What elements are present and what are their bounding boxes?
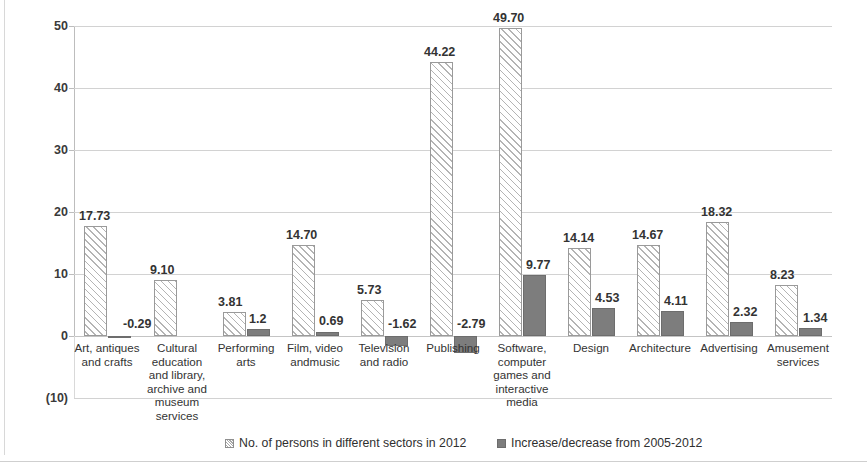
y-axis-tick-label: 40: [26, 82, 68, 95]
gridline-40: [74, 88, 832, 89]
bar-value-label: 14.67: [632, 229, 663, 242]
x-axis-category-line: Film, video: [276, 341, 354, 355]
bar-series-2: [592, 308, 615, 336]
bar-series-2: [661, 311, 684, 336]
x-axis-category-line: education: [138, 355, 216, 369]
x-axis-category-label: Advertising: [690, 341, 768, 355]
y-axis-tick-label: 10: [26, 268, 68, 281]
page-edge-line-left: [4, 0, 5, 455]
bar-series-1: [499, 28, 522, 336]
bar-value-label: -0.29: [123, 318, 152, 331]
x-axis-category-line: media: [483, 395, 561, 409]
y-axis-tick-10: [69, 274, 74, 275]
plot-area: 17.73-0.299.103.811.214.700.695.73-1.624…: [74, 26, 832, 336]
bar-value-label: -1.62: [388, 318, 417, 331]
x-axis-category-line: Cultural: [138, 341, 216, 355]
bar-series-1: [706, 222, 729, 336]
x-axis-category-label: Film, videoandmusic: [276, 341, 354, 368]
x-axis-category-line: museum: [138, 395, 216, 409]
page-edge-line-bottom: [0, 461, 867, 462]
bar-value-label: -2.79: [457, 318, 486, 331]
y-axis-label-negative: (10): [20, 392, 68, 405]
bar-series-1: [637, 245, 660, 336]
x-axis-category-line: Software,: [483, 341, 561, 355]
bar-value-label: 0.69: [319, 315, 343, 328]
legend-swatch-solid-icon: [497, 439, 506, 448]
x-axis-category-line: services: [138, 409, 216, 423]
x-axis-category-label: Amusementservices: [759, 341, 837, 368]
x-axis-category-line: Amusement: [759, 341, 837, 355]
x-axis-category-line: services: [759, 355, 837, 369]
bar-value-label: 5.73: [357, 284, 381, 297]
bar-series-1: [568, 248, 591, 336]
legend-item: No. of persons in different sectors in 2…: [225, 437, 466, 449]
x-axis-category-line: and radio: [345, 355, 423, 369]
bar-series-2: [730, 322, 753, 336]
y-axis-tick-label: 30: [26, 144, 68, 157]
chart-legend: No. of persons in different sectors in 2…: [0, 437, 867, 457]
bar-series-1: [154, 280, 177, 336]
bar-series-1: [775, 285, 798, 336]
bar-series-1: [430, 62, 453, 336]
x-axis-category-line: Design: [552, 341, 630, 355]
bar-value-label: 8.23: [770, 269, 794, 282]
y-axis-tick-50: [69, 26, 74, 27]
bar-value-label: 14.70: [286, 229, 317, 242]
x-axis-category-line: interactive: [483, 382, 561, 396]
y-axis-line: [74, 26, 75, 336]
x-axis-category-label: Performingarts: [207, 341, 285, 368]
x-axis-category-line: and crafts: [68, 355, 146, 369]
x-axis-category-label: Televisionand radio: [345, 341, 423, 368]
x-axis-category-line: and library,: [138, 368, 216, 382]
bar-value-label: 14.14: [563, 232, 594, 245]
y-axis-tick-30: [69, 150, 74, 151]
bar-series-2: [247, 329, 270, 336]
x-axis-category-line: archive and: [138, 382, 216, 396]
x-axis-category-line: arts: [207, 355, 285, 369]
x-axis-category-label: Culturaleducationand library,archive and…: [138, 341, 216, 423]
legend-item: Increase/decrease from 2005-2012: [497, 437, 702, 449]
x-axis-category-line: Performing: [207, 341, 285, 355]
x-axis-category-line: Advertising: [690, 341, 768, 355]
x-axis-category-label: Architecture: [621, 341, 699, 355]
bar-value-label: 44.22: [424, 46, 455, 59]
bar-series-1: [84, 226, 107, 336]
x-axis-category-label: Design: [552, 341, 630, 355]
x-axis-category-label: Publishing: [414, 341, 492, 355]
x-axis-category-line: games and: [483, 368, 561, 382]
y-axis-tick-20: [69, 212, 74, 213]
bar-series-1: [292, 245, 315, 336]
x-axis-category-line: computer: [483, 355, 561, 369]
bar-value-label: 3.81: [218, 296, 242, 309]
bar-chart: 50403020100 (10) 17.73-0.299.103.811.214…: [0, 0, 867, 466]
bar-series-1: [223, 312, 246, 336]
bar-value-label: 1.34: [803, 312, 827, 325]
y-axis-tick-label: 0: [26, 330, 68, 343]
x-axis-category-line: Art, antiques: [68, 341, 146, 355]
legend-label: No. of persons in different sectors in 2…: [239, 437, 466, 449]
bar-value-label: 2.32: [733, 306, 757, 319]
bar-value-label: 4.53: [595, 292, 619, 305]
y-axis-labels: 50403020100: [26, 26, 68, 336]
bar-series-2: [316, 332, 339, 336]
legend-swatch-hatched-icon: [225, 439, 234, 448]
y-axis-tick-label: 20: [26, 206, 68, 219]
gridline-30: [74, 150, 832, 151]
bar-value-label: 17.73: [79, 210, 110, 223]
y-axis-tick-40: [69, 88, 74, 89]
bar-series-2: [799, 328, 822, 336]
y-axis-tick-label: 50: [26, 20, 68, 33]
gridline-50: [74, 26, 832, 27]
x-axis-category-labels: Art, antiquesand craftsCulturaleducation…: [74, 341, 832, 451]
bar-value-label: 49.70: [493, 12, 524, 25]
bar-value-label: 1.2: [249, 313, 266, 326]
legend-label: Increase/decrease from 2005-2012: [511, 437, 702, 449]
bar-value-label: 18.32: [701, 206, 732, 219]
x-axis-category-label: Software,computergames andinteractivemed…: [483, 341, 561, 409]
bar-value-label: 4.11: [664, 295, 688, 308]
bar-series-2: [523, 275, 546, 336]
x-axis-category-line: Publishing: [414, 341, 492, 355]
x-axis-category-line: andmusic: [276, 355, 354, 369]
bar-value-label: 9.10: [150, 264, 174, 277]
x-axis-category-line: Television: [345, 341, 423, 355]
